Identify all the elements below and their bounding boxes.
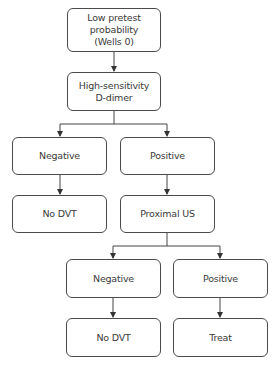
node-label: Low pretest probability (Wells 0) (87, 12, 140, 48)
node-proximal-us: Proximal US (120, 195, 215, 233)
node-d-dimer-negative: Negative (12, 137, 107, 175)
node-us-negative: Negative (66, 259, 161, 298)
connector-lines (0, 0, 280, 370)
node-label: No DVT (96, 332, 130, 344)
node-label: Proximal US (140, 208, 195, 220)
node-label: Treat (209, 332, 232, 344)
node-treat: Treat (173, 318, 268, 357)
node-high-sensitivity-d-dimer: High-sensitivity D-dimer (67, 72, 161, 111)
node-d-dimer-positive: Positive (120, 137, 215, 175)
node-no-dvt-2: No DVT (66, 318, 161, 357)
node-label: No DVT (42, 208, 76, 220)
node-low-pretest-probability: Low pretest probability (Wells 0) (67, 8, 161, 52)
node-label: Negative (93, 273, 134, 285)
node-label: Negative (39, 150, 80, 162)
node-label: Positive (203, 273, 238, 285)
node-us-positive: Positive (173, 259, 268, 298)
node-label: High-sensitivity D-dimer (79, 80, 149, 104)
node-label: Positive (150, 150, 185, 162)
node-no-dvt-1: No DVT (12, 195, 107, 233)
